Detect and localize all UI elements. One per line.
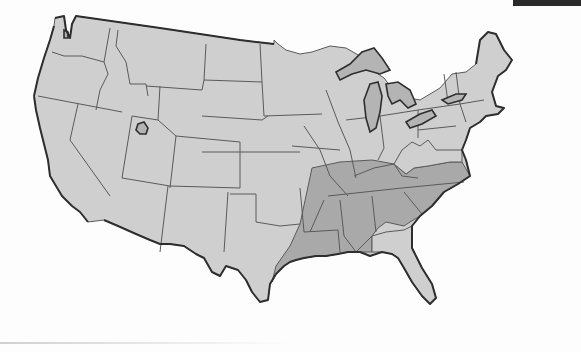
- us-map: Contiguous United States: [0, 0, 581, 352]
- book-page: Contiguous United States: [0, 0, 581, 352]
- state-florida: [372, 226, 436, 304]
